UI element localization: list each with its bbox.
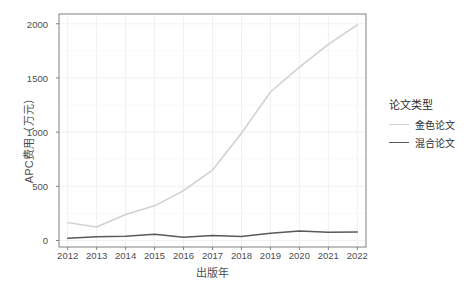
legend-line-swatch-icon	[389, 119, 409, 130]
y-axis-tick-label: 1500	[14, 72, 48, 83]
chart-container: APC费用（万元） 出版年 0500100015002000 201220132…	[0, 0, 469, 286]
legend-item-label: 混合论文	[415, 135, 455, 150]
legend-item-label: 金色论文	[415, 117, 455, 132]
legend-title: 论文类型	[389, 96, 433, 112]
legend-item-1[interactable]: 金色论文	[389, 116, 455, 132]
y-axis-tick-label: 1000	[14, 127, 48, 138]
legend-line-swatch-icon	[389, 137, 409, 148]
legend-item-2[interactable]: 混合论文	[389, 134, 455, 150]
y-axis-tick-label: 0	[14, 235, 48, 246]
y-axis-tick-label: 500	[14, 181, 48, 192]
y-axis-tick-label: 2000	[14, 18, 48, 29]
x-axis-title: 出版年	[59, 264, 366, 280]
x-axis-tick-label: 2022	[337, 250, 377, 261]
